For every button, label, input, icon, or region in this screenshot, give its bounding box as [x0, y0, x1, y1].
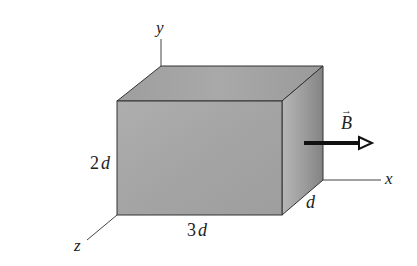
z-axis: [87, 215, 117, 240]
height-label: 2 d: [90, 153, 111, 173]
height-coefficient: 2: [90, 153, 99, 173]
box-diagram: y x z B → 2 d 3 d d: [0, 0, 417, 266]
width-coefficient: 3: [187, 220, 196, 240]
width-unit: d: [198, 220, 208, 240]
field-label: B: [341, 113, 352, 133]
arrowhead-icon: [359, 137, 372, 149]
width-label: 3 d: [187, 220, 208, 240]
y-axis-label: y: [154, 18, 164, 37]
depth-label: d: [306, 192, 316, 212]
height-unit: d: [101, 153, 111, 173]
box-front-face: [117, 101, 282, 215]
vector-arrow-mark: →: [341, 104, 352, 116]
x-axis-label: x: [384, 169, 393, 188]
z-axis-label: z: [73, 236, 81, 255]
